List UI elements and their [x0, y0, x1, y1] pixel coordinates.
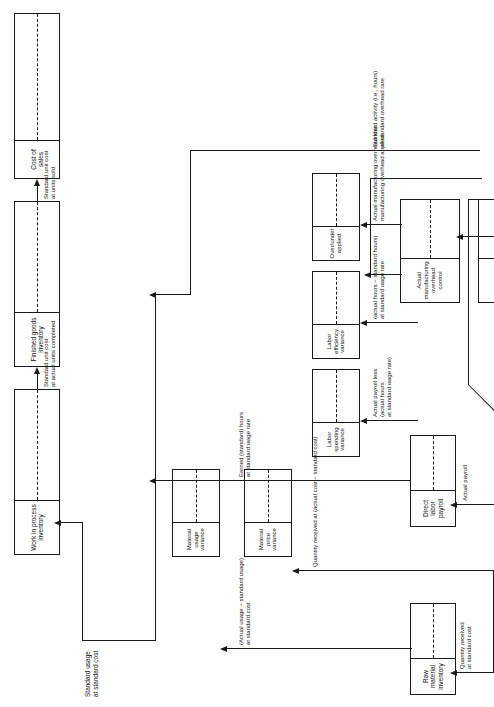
- rotated-figure-wrapper: Work in process inventory Finished goods…: [0, 0, 494, 707]
- flow-actual-payroll: [456, 504, 494, 505]
- variance-labor-spending: Labor spending variance: [312, 369, 360, 457]
- label-earned-standard-hours: Earned (standard) hours at standard wage…: [238, 367, 252, 477]
- arrow-into-over-under-applied: [360, 223, 367, 229]
- flow-fg-to-cos: [37, 185, 38, 201]
- variance-labor-efficiency-body: [313, 272, 359, 324]
- arrow-into-rm-debit: [450, 671, 457, 677]
- arrow-into-labor-spending-variance: [360, 419, 367, 425]
- variance-over-under-applied: Over/under applied: [312, 173, 360, 261]
- arrow-into-material-usage-variance: [220, 647, 227, 653]
- flow-moh-applied-run: [190, 150, 191, 295]
- variance-over-under-applied-title: Over/under applied: [313, 226, 359, 260]
- account-work-in-process: Work in process inventory: [14, 389, 60, 555]
- account-raw-material-title: Raw material inventory: [411, 658, 455, 694]
- label-actual-minus-standard-usage: (Actual usage − standard usage) at stand…: [238, 513, 252, 645]
- flow-price-variance-riser: [298, 570, 494, 571]
- flow-labor-efficiency-riser: [366, 322, 418, 323]
- variance-material-usage: Material usage variance: [172, 469, 220, 557]
- arrow-into-material-price-variance: [292, 569, 299, 575]
- arrow-into-actual-moh-credit: [456, 235, 463, 241]
- flow-rm-to-material-usage-variance: [226, 648, 412, 649]
- variance-over-under-applied-body: [313, 174, 359, 226]
- account-raw-material: Raw material inventory: [410, 603, 456, 695]
- account-work-in-process-title: Work in process inventory: [15, 500, 59, 554]
- variance-material-usage-body: [173, 470, 219, 522]
- label-standard-usage: Standard usage at standard cost: [84, 601, 100, 697]
- flowchart-canvas: Work in process inventory Finished goods…: [0, 0, 494, 707]
- variance-labor-spending-title: Labor spending variance: [313, 422, 359, 456]
- bracket-over-under-riser: [370, 178, 482, 179]
- account-raw-material-body: [411, 604, 455, 658]
- flow-ledger-to-actual-moh: [462, 236, 494, 237]
- bus-wip-credit-rail: [155, 295, 156, 641]
- flow-moh-applied-riser: [190, 150, 480, 151]
- arrow-into-direct-labor-debit: [450, 503, 457, 509]
- bracket-over-under-run: [370, 179, 371, 275]
- arrow-fg-to-cos: [34, 179, 40, 186]
- account-direct-labor-payroll-body: [411, 436, 455, 490]
- account-actual-moh-control-title: Actual manufacturing overhead control: [401, 258, 459, 302]
- label-standard-activity: Standard activity (i.e., hours) at stand…: [372, 17, 386, 147]
- arrow-into-wip-debit: [54, 521, 61, 527]
- variance-labor-efficiency-title: Labor efficiency variance: [313, 324, 359, 358]
- variance-labor-efficiency: Labor efficiency variance: [312, 271, 360, 359]
- flow-moh-applied-into-wip: [155, 294, 191, 295]
- label-std-unit-cost-units-sold: Standard unit cost at units sold: [43, 79, 57, 199]
- account-direct-labor-payroll-title: Direct labor payroll: [411, 490, 455, 526]
- label-actual-payroll-less: Actual payroll less (actual hours at sta…: [372, 307, 394, 417]
- label-actual-payroll: Actual payroll: [462, 421, 469, 501]
- flow-receipts-into-rm-riser: [456, 672, 494, 673]
- flow-over-under-riser: [366, 224, 402, 225]
- account-actual-moh-control: Actual manufacturing overhead control: [400, 199, 460, 303]
- account-actual-moh-control-body: [401, 200, 459, 258]
- flow-labor-spending-riser: [366, 420, 418, 421]
- bus-riser-into-wip: [60, 522, 83, 523]
- flow-wip-to-fg: [37, 373, 38, 389]
- flow-actual-moh-debit-riser: [370, 274, 402, 275]
- flow-dl-to-wip: [155, 480, 411, 481]
- label-qty-received-actual-minus-standard: Quantity received at (actual cost − stan…: [312, 367, 319, 567]
- label-qty-received-std-cost: Quantity received at standard cost: [459, 589, 473, 669]
- label-std-unit-cost-units-completed: Standard unit cost at actual units compl…: [43, 257, 57, 387]
- variance-labor-spending-body: [313, 370, 359, 422]
- department-ledger-frame: [468, 199, 494, 411]
- account-direct-labor-payroll: Direct labor payroll: [410, 435, 456, 527]
- variance-material-usage-title: Material usage variance: [173, 522, 219, 556]
- account-work-in-process-body: [15, 390, 59, 500]
- arrow-into-labor-efficiency-variance: [360, 321, 367, 327]
- bus-horizontal-raw-material-to-wip: [82, 523, 83, 641]
- arrow-wip-to-fg: [34, 367, 40, 374]
